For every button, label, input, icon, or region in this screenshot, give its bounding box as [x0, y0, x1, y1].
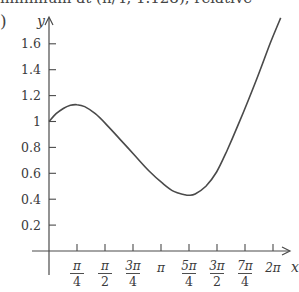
x-tick-label-numerator: 3π	[209, 259, 226, 273]
x-tick-label-denominator: 4	[129, 274, 137, 289]
line-chart: 0.20.40.60.811.21.41.6 π4π23π4π5π43π27π4…	[0, 0, 299, 292]
y-tick-label: 0.2	[21, 218, 41, 233]
y-tick-label: 1	[33, 114, 41, 129]
x-tick-label: π	[156, 261, 166, 275]
y-tick-label: 0.4	[21, 192, 41, 207]
axes	[32, 17, 290, 275]
x-tick-label-denominator: 2	[213, 274, 221, 289]
x-tick-label-numerator: π	[72, 259, 82, 273]
x-tick-label: 2π	[264, 261, 282, 275]
x-tick-label-denominator: 2	[101, 274, 109, 289]
x-tick-label-denominator: 4	[73, 274, 81, 289]
y-tick-label: 1.6	[21, 36, 41, 51]
y-axis-ticks: 0.20.40.60.811.21.41.6	[21, 36, 56, 232]
function-curve	[49, 18, 281, 195]
x-tick-label-denominator: 4	[241, 274, 249, 289]
y-axis-label: y	[36, 13, 46, 29]
x-axis-label: x	[291, 259, 299, 275]
x-tick-label-numerator: 3π	[125, 259, 142, 273]
y-tick-label: 0.8	[21, 140, 41, 155]
x-tick-label-numerator: 5π	[181, 259, 198, 273]
x-tick-label-numerator: 7π	[237, 259, 254, 273]
y-tick-label: 1.4	[21, 62, 41, 77]
y-tick-label: 0.6	[21, 166, 41, 181]
y-tick-label: 1.2	[21, 88, 41, 103]
x-tick-label-numerator: π	[100, 259, 110, 273]
x-tick-label-denominator: 4	[185, 274, 193, 289]
